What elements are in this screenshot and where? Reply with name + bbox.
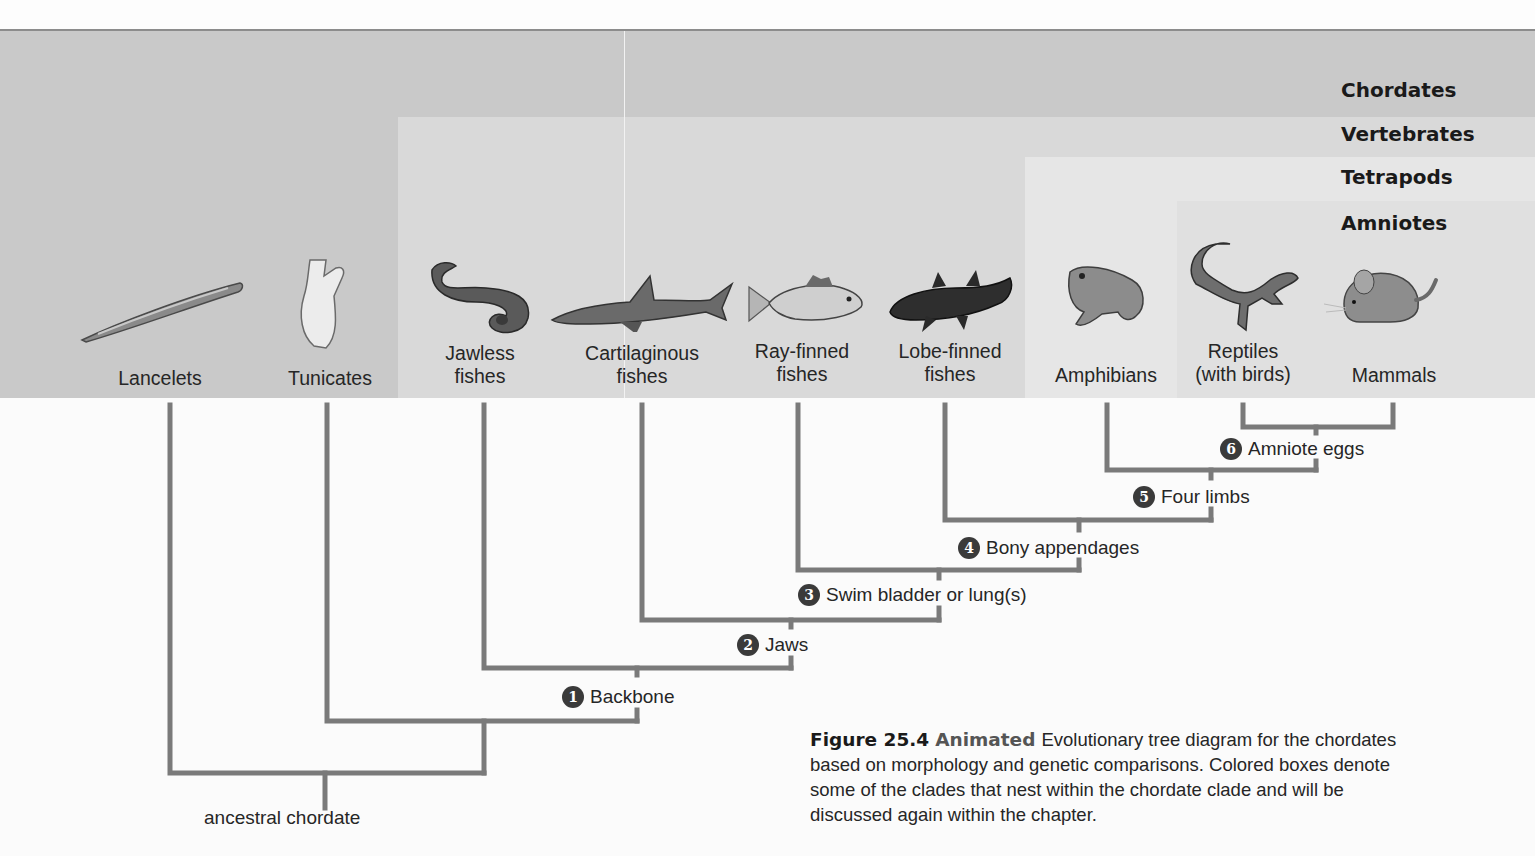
root-label: ancestral chordate bbox=[204, 807, 360, 829]
character-label: Backbone bbox=[590, 686, 675, 708]
number-badge-icon: 1 bbox=[562, 686, 584, 708]
figure-caption: Figure 25.4AnimatedEvolutionary tree dia… bbox=[810, 727, 1430, 827]
character-backbone: 1 Backbone bbox=[562, 686, 675, 708]
figure-number: Figure 25.4 bbox=[810, 729, 929, 750]
character-label: Bony appendages bbox=[986, 537, 1139, 559]
number-badge-icon: 5 bbox=[1133, 486, 1155, 508]
character-amniote-eggs: 6 Amniote eggs bbox=[1220, 438, 1364, 460]
character-jaws: 2 Jaws bbox=[737, 634, 808, 656]
character-label: Jaws bbox=[765, 634, 808, 656]
number-badge-icon: 4 bbox=[958, 537, 980, 559]
number-badge-icon: 2 bbox=[737, 634, 759, 656]
animated-tag: Animated bbox=[935, 729, 1035, 750]
character-label: Swim bladder or lung(s) bbox=[826, 584, 1027, 606]
character-label: Four limbs bbox=[1161, 486, 1250, 508]
character-four-limbs: 5 Four limbs bbox=[1133, 486, 1250, 508]
character-bony-appendages: 4 Bony appendages bbox=[958, 537, 1139, 559]
character-label: Amniote eggs bbox=[1248, 438, 1364, 460]
character-swim-bladder: 3 Swim bladder or lung(s) bbox=[798, 584, 1027, 606]
number-badge-icon: 3 bbox=[798, 584, 820, 606]
number-badge-icon: 6 bbox=[1220, 438, 1242, 460]
